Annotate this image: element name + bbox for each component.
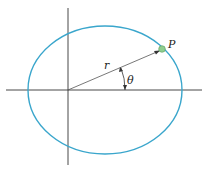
radius-vector <box>68 51 159 90</box>
polar-ellipse-diagram: P r θ <box>0 0 211 170</box>
point-p <box>159 46 166 53</box>
radius-label: r <box>104 59 110 72</box>
point-label: P <box>167 38 176 51</box>
angle-label: θ <box>127 74 134 87</box>
